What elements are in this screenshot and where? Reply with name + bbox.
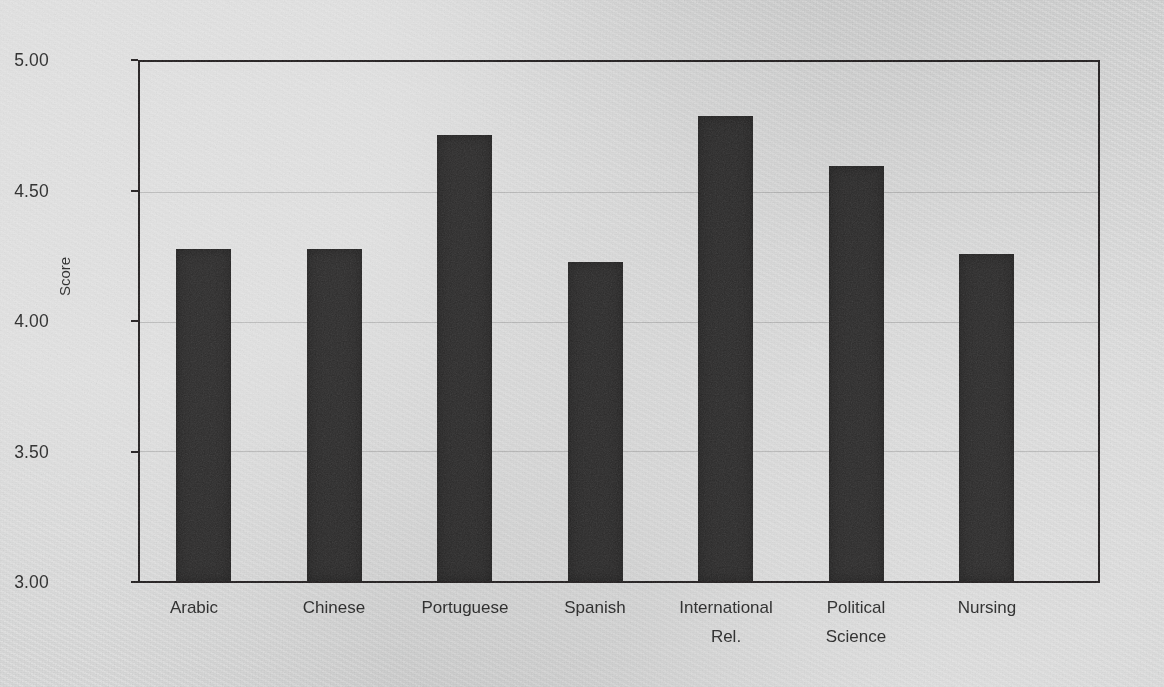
y-tick-mark-2	[131, 451, 138, 453]
x-tick-label-line: Science	[776, 622, 936, 651]
bar-chinese[interactable]	[307, 249, 362, 581]
y-tick-label-4: 4.50	[0, 181, 49, 202]
bar-portuguese[interactable]	[437, 135, 492, 581]
y-tick-mark-1	[131, 581, 138, 583]
bar-international-rel[interactable]	[698, 116, 753, 581]
y-axis-title: Score	[56, 257, 73, 296]
x-tick-label-line: Nursing	[907, 593, 1067, 622]
y-tick-label-2: 3.50	[0, 442, 49, 463]
x-tick-label-line: Arabic	[114, 593, 274, 622]
bar-political-science[interactable]	[829, 166, 884, 581]
x-tick-label-arabic: Arabic	[114, 593, 274, 622]
bar-nursing[interactable]	[959, 254, 1014, 581]
y-tick-mark-3	[131, 320, 138, 322]
plot-area	[138, 60, 1100, 583]
y-tick-mark-4	[131, 190, 138, 192]
bars-layer	[140, 62, 1098, 581]
y-tick-label-3: 4.00	[0, 311, 49, 332]
y-tick-label-5: 5.00	[0, 50, 49, 71]
bar-chart-figure: Score 5.00 4.50 4.00 3.50 3.00 Arabic Ch…	[0, 0, 1164, 687]
y-tick-mark-5	[131, 59, 138, 61]
bar-spanish[interactable]	[568, 262, 623, 581]
bar-arabic[interactable]	[176, 249, 231, 581]
x-tick-label-nursing: Nursing	[907, 593, 1067, 622]
y-tick-label-1: 3.00	[0, 572, 49, 593]
